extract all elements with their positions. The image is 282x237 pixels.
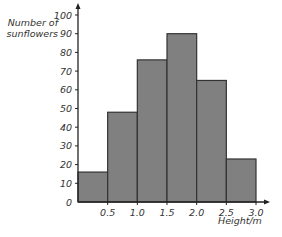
y-axis-arrow-icon bbox=[76, 3, 81, 9]
x-tick-label: 0.5 bbox=[100, 207, 115, 218]
x-tick-label: 2.0 bbox=[189, 207, 204, 218]
y-tick-label: 80 bbox=[60, 47, 72, 58]
x-tick-label: 1.0 bbox=[130, 207, 145, 218]
histogram-bar bbox=[226, 159, 256, 202]
y-tick-label: 70 bbox=[60, 66, 72, 77]
y-axis-label: Number of sunflowers bbox=[2, 17, 58, 39]
y-axis-label-line2: sunflowers bbox=[2, 28, 58, 39]
x-axis-label: Height/m bbox=[218, 215, 262, 226]
y-tick-label: 30 bbox=[60, 140, 72, 151]
y-tick-label: 60 bbox=[60, 84, 72, 95]
y-tick-label: 90 bbox=[60, 28, 72, 39]
y-tick-label: 20 bbox=[60, 159, 72, 170]
y-tick-label: 10 bbox=[60, 178, 72, 189]
histogram-bar bbox=[108, 112, 138, 202]
y-axis-label-line1: Number of bbox=[2, 17, 58, 28]
histogram-bar bbox=[137, 60, 167, 202]
x-axis-arrow-icon bbox=[264, 200, 270, 205]
histogram-bar bbox=[78, 172, 108, 202]
histogram-bar bbox=[197, 80, 227, 202]
x-tick-label: 1.5 bbox=[159, 207, 174, 218]
y-tick-label: 50 bbox=[60, 103, 72, 114]
histogram-bar bbox=[167, 34, 197, 202]
y-tick-label: 0 bbox=[66, 197, 72, 208]
y-tick-label: 40 bbox=[60, 122, 72, 133]
